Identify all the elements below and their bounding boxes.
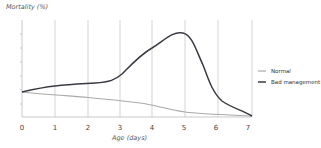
x-axis-label: Age (days) bbox=[112, 134, 147, 142]
svg-text:0: 0 bbox=[20, 124, 24, 132]
svg-text:6: 6 bbox=[214, 124, 219, 132]
legend-bad-management-label: Bad management bbox=[271, 79, 321, 86]
series-bad-management-line bbox=[22, 33, 252, 116]
svg-text:1: 1 bbox=[53, 124, 57, 132]
gridlines bbox=[55, 20, 252, 117]
legend-normal-label: Normal bbox=[271, 68, 291, 74]
x-tick-labels: 0 1 2 3 4 5 6 7 bbox=[20, 124, 250, 132]
svg-text:2: 2 bbox=[86, 124, 90, 132]
svg-text:5: 5 bbox=[182, 124, 186, 132]
chart-canvas: 0 1 2 3 4 5 6 7 Normal Bad management bbox=[0, 0, 321, 148]
svg-text:3: 3 bbox=[118, 124, 122, 132]
legend: Normal Bad management bbox=[258, 68, 321, 86]
svg-text:4: 4 bbox=[150, 124, 155, 132]
svg-text:7: 7 bbox=[246, 124, 250, 132]
